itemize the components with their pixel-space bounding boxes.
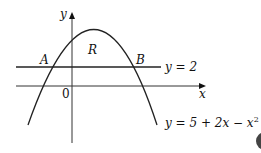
curve-equation-main: y = 5 + 2x − x [164,116,254,130]
y-axis-arrow-icon [69,12,75,19]
curve-equation-label: y = 5 + 2x − x2 [164,115,259,130]
curve-equation-exponent: 2 [254,115,259,124]
region-r-label: R [87,43,97,57]
edge-circle-icon [256,132,261,150]
point-a-label: A [39,53,49,67]
origin-label: 0 [62,87,70,101]
graph-diagram: y x 0 A B R y = 2 y = 5 + 2x − x2 [0,0,261,153]
x-axis-label: x [199,87,206,101]
line-equation-label: y = 2 [164,60,197,74]
point-b-label: B [135,53,145,67]
y-axis-label: y [59,7,67,21]
